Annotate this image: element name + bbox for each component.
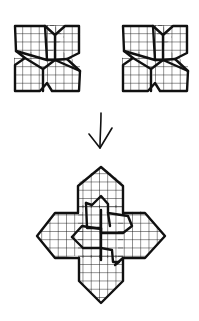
combined-figure [37,166,165,303]
diagram-canvas [0,0,199,321]
tile-left [14,25,80,91]
arrow-down-icon [89,113,112,148]
tile-right [122,25,188,91]
